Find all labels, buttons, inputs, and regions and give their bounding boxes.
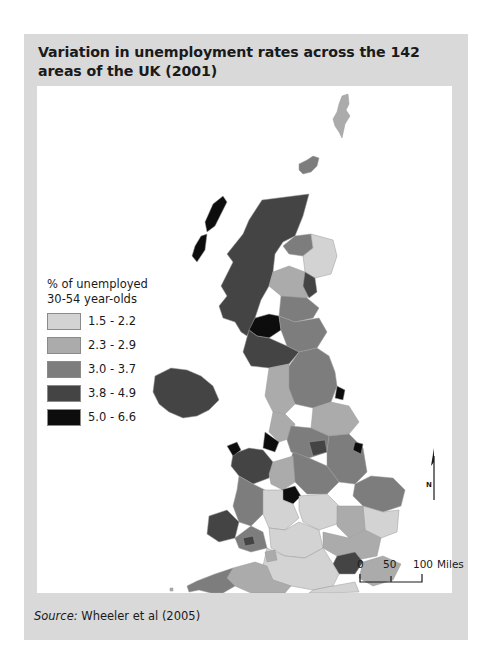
region-western-isles [192,196,227,262]
scale-tick-50: 50 [383,558,396,570]
scale-tick-0: 0 [357,558,364,570]
legend-item: 1.5 - 2.2 [47,311,167,331]
figure-panel: Variation in unemployment rates across t… [24,34,468,640]
source-note: Source: Wheeler et al (2005) [34,609,200,623]
legend-item: 3.0 - 3.7 [47,359,167,379]
legend-label: 5.0 - 6.6 [88,410,136,424]
region-shetland [333,94,350,138]
region-scilly [170,588,173,591]
region-valleys [243,536,255,546]
legend-label: 1.5 - 2.2 [88,314,136,328]
region-bristol [265,550,277,562]
north-label: N [426,481,432,489]
north-arrow-icon [431,448,434,500]
region-tyneside [335,386,345,400]
legend-item: 3.8 - 4.9 [47,383,167,403]
region-cornwall [187,568,235,593]
region-mid-wales [233,476,265,526]
legend-swatch [47,385,81,402]
region-north-yorkshire [311,402,359,436]
scale-tick-100: 100 [413,558,433,570]
legend-swatch [47,337,81,354]
source-label: Source: [34,609,78,623]
source-text: Wheeler et al (2005) [78,609,201,623]
region-orkney [299,156,319,174]
legend-swatch [47,361,81,378]
legend-label: 3.8 - 4.9 [88,386,136,400]
region-north-wales [231,448,273,484]
figure-title: Variation in unemployment rates across t… [38,43,458,81]
region-west-wales [207,510,239,542]
map-legend: % of unemployed 30-54 year-olds 1.5 - 2.… [47,277,167,427]
map-frame: N 0 50 100 Miles % of unemployed 30-54 y… [37,86,452,593]
legend-label: 3.0 - 3.7 [88,362,136,376]
legend-label: 2.3 - 2.9 [88,338,136,352]
legend-swatch [47,313,81,330]
legend-item: 2.3 - 2.9 [47,335,167,355]
legend-swatch [47,409,81,426]
legend-title-line1: % of unemployed [47,277,167,292]
scale-unit: Miles [437,558,464,570]
region-cheshire-staffs [269,456,295,490]
legend-title-line2: 30-54 year-olds [47,292,167,307]
legend-item: 5.0 - 6.6 [47,407,167,427]
